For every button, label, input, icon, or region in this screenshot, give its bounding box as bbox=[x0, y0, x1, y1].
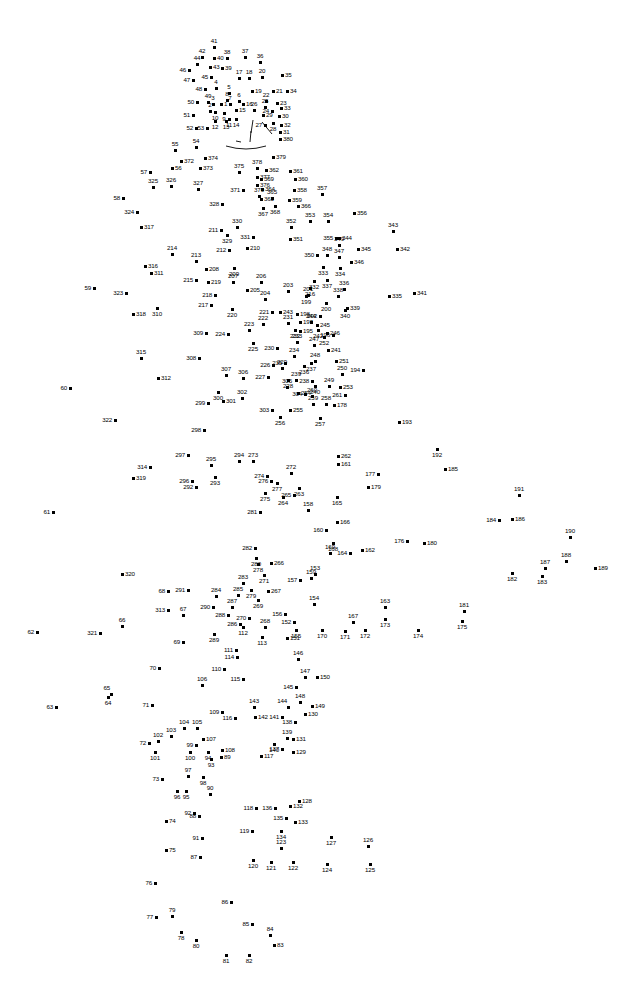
dot-marker bbox=[284, 362, 287, 365]
dot-label: 253 bbox=[343, 384, 353, 390]
dot-marker bbox=[207, 101, 210, 104]
dot-label: 263 bbox=[294, 491, 304, 497]
dot-label: 314 bbox=[137, 464, 147, 470]
dot-marker bbox=[210, 464, 213, 467]
dot-label: 348 bbox=[322, 246, 332, 252]
dot-marker bbox=[248, 329, 251, 332]
dot-marker bbox=[201, 56, 204, 59]
dot-label: 216 bbox=[305, 291, 315, 297]
dot-label: 163 bbox=[380, 598, 390, 604]
dot-marker bbox=[202, 738, 205, 741]
dot-marker bbox=[287, 706, 290, 709]
dot-marker bbox=[195, 279, 198, 282]
dot-marker bbox=[270, 562, 273, 565]
dot-label: 73 bbox=[152, 776, 159, 782]
mouth-curve bbox=[226, 146, 266, 149]
dot-label: 143 bbox=[249, 698, 259, 704]
dot-label: 365 bbox=[267, 189, 277, 195]
dot-marker bbox=[310, 321, 313, 324]
dot-marker bbox=[294, 178, 297, 181]
dot-label: 176 bbox=[394, 538, 404, 544]
dot-label: 166 bbox=[340, 519, 350, 525]
dot-label: 118 bbox=[244, 805, 253, 811]
dot-marker bbox=[290, 226, 293, 229]
dot-label: 206 bbox=[256, 273, 266, 279]
dot-label: 282 bbox=[242, 545, 252, 551]
dot-label: 208 bbox=[209, 266, 219, 272]
dot-marker bbox=[289, 238, 292, 241]
dot-marker bbox=[276, 347, 279, 350]
dot-label: 311 bbox=[154, 270, 163, 276]
dot-label: 147 bbox=[300, 668, 310, 674]
dot-marker bbox=[253, 706, 256, 709]
dot-marker bbox=[238, 171, 241, 174]
dot-label: 90 bbox=[207, 785, 214, 791]
dot-label: 67 bbox=[180, 606, 187, 612]
dot-label: 286 bbox=[227, 621, 237, 627]
dot-marker bbox=[201, 837, 204, 840]
dot-label: 373 bbox=[203, 165, 213, 171]
dot-marker bbox=[171, 915, 174, 918]
dot-label: 100 bbox=[185, 755, 195, 761]
dot-label: 17 bbox=[236, 69, 243, 75]
dot-marker bbox=[227, 333, 230, 336]
dot-marker bbox=[93, 287, 96, 290]
dot-label: 250 bbox=[337, 365, 347, 371]
dot-label: 262 bbox=[341, 453, 351, 459]
dot-marker bbox=[292, 751, 295, 754]
dot-label: 109 bbox=[209, 709, 219, 715]
dot-marker bbox=[264, 298, 267, 301]
dot-label: 77 bbox=[146, 914, 153, 920]
dot-label: 29 bbox=[266, 112, 273, 118]
dot-marker bbox=[413, 292, 416, 295]
dot-label: 145 bbox=[283, 684, 293, 690]
dot-marker bbox=[170, 735, 173, 738]
dot-label: 289 bbox=[209, 637, 219, 643]
dot-marker bbox=[262, 323, 265, 326]
dot-label: 37 bbox=[242, 48, 249, 54]
dot-marker bbox=[286, 637, 289, 640]
dot-label: 273 bbox=[248, 452, 258, 458]
dot-marker bbox=[246, 289, 249, 292]
dot-label: 217 bbox=[198, 302, 208, 308]
dot-marker bbox=[52, 511, 55, 514]
dot-label: 78 bbox=[178, 935, 185, 941]
dot-label: 276 bbox=[258, 478, 268, 484]
dot-marker bbox=[220, 756, 223, 759]
dot-marker bbox=[296, 341, 299, 344]
dot-label: 63 bbox=[46, 704, 53, 710]
dot-label: 138 bbox=[282, 719, 292, 725]
dot-marker bbox=[339, 386, 342, 389]
dot-marker bbox=[327, 349, 330, 352]
dot-label: 266 bbox=[274, 560, 284, 566]
dot-marker bbox=[205, 268, 208, 271]
dot-label: 299 bbox=[195, 400, 205, 406]
dot-marker bbox=[287, 290, 290, 293]
dot-marker bbox=[274, 807, 277, 810]
dot-label: 93 bbox=[208, 762, 215, 768]
dot-label: 260 bbox=[307, 387, 317, 393]
dot-marker bbox=[151, 704, 154, 707]
dot-label: 264 bbox=[278, 500, 288, 506]
dot-marker bbox=[352, 621, 355, 624]
dot-marker bbox=[150, 272, 153, 275]
dot-label: 91 bbox=[192, 835, 199, 841]
dot-label: 296 bbox=[179, 478, 189, 484]
dot-marker bbox=[325, 529, 328, 532]
dot-marker bbox=[264, 626, 267, 629]
dot-marker bbox=[213, 57, 216, 60]
dot-label: 298 bbox=[191, 427, 201, 433]
dot-label: 158 bbox=[303, 501, 313, 507]
dot-label: 237 bbox=[306, 366, 316, 372]
dot-label: 39 bbox=[225, 65, 232, 71]
dot-label: 102 bbox=[153, 732, 163, 738]
dot-marker bbox=[204, 157, 207, 160]
dot-label: 244 bbox=[306, 313, 316, 319]
dot-label: 238 bbox=[299, 378, 309, 384]
dot-marker bbox=[232, 281, 235, 284]
dot-label: 139 bbox=[282, 729, 292, 735]
dot-marker bbox=[280, 847, 283, 850]
dot-marker bbox=[276, 102, 279, 105]
dot-label: 66 bbox=[119, 617, 126, 623]
dot-marker bbox=[215, 595, 218, 598]
